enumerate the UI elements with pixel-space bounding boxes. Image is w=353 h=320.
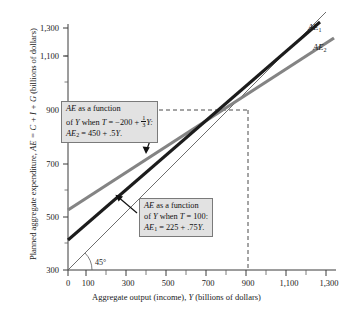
- x-axis-title: Aggregate output (income), Y (billions o…: [0, 292, 353, 302]
- x-tick-label-300: 300: [122, 278, 135, 288]
- x-axis-ticks: [68, 270, 326, 276]
- annotation-ae2-line3: AE2 = 450 + .5Y.: [66, 129, 153, 140]
- x-axis-tick-labels: 0 100 300 500 700 900 1,100 1,300: [66, 278, 339, 288]
- y-tick-label-1100: 1,100: [40, 51, 59, 61]
- x-tick-label-100: 100: [82, 278, 95, 288]
- annotation-ae2-box: AE as a function of Y when T = −200 + 13…: [61, 101, 158, 143]
- chart-canvas: 1,300 1,100 900 700 500 300 0: [0, 0, 353, 320]
- x-tick-label-1300: 1,300: [319, 278, 338, 288]
- annotation-ae1-line2: of Y when T = 100:: [144, 212, 208, 223]
- annotation-ae1-line1: AE as a function: [144, 201, 208, 212]
- y-tick-label-300: 300: [46, 265, 59, 275]
- x-tick-label-1100: 1,100: [279, 278, 298, 288]
- x-tick-label-700: 700: [202, 278, 215, 288]
- y-tick-label-900: 900: [46, 105, 59, 115]
- y-axis-tick-labels: 1,300 1,100 900 700 500 300: [40, 23, 59, 275]
- annotation-ae2-line2: of Y when T = −200 + 13Y:: [66, 115, 153, 129]
- angle-label-45: 45°: [95, 258, 106, 267]
- angle-arc: [85, 253, 92, 270]
- y-tick-label-500: 500: [46, 212, 59, 222]
- annotation-ae1-line3: AE1 = 225 + .75Y.: [144, 223, 208, 234]
- annotation-ae1-box: AE as a function of Y when T = 100: AE1 …: [139, 198, 213, 237]
- y-tick-label-1300: 1,300: [40, 23, 59, 33]
- keynesian-cross-figure: 1,300 1,100 900 700 500 300 0: [0, 0, 353, 320]
- annotation-ae2-line1: AE as a function: [66, 104, 153, 115]
- x-tick-label-900: 900: [242, 278, 255, 288]
- x-tick-label-0: 0: [66, 278, 70, 288]
- x-tick-label-500: 500: [162, 278, 175, 288]
- y-axis-ticks: [63, 28, 68, 270]
- y-axis-title: Planned aggregate expenditure, AE = C + …: [28, 30, 38, 260]
- y-tick-label-700: 700: [46, 159, 59, 169]
